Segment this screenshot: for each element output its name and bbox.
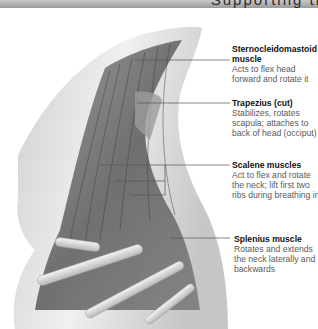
label-splenius: Splenius muscle Rotates and extends the … xyxy=(234,234,318,274)
label-title: Trapezius (cut) xyxy=(232,98,318,108)
label-title: Sternocleidomastoid muscle xyxy=(232,44,318,64)
label-description: Acts to flex head forward and rotate it xyxy=(232,64,318,84)
label-description: Rotates and extends the neck laterally a… xyxy=(234,244,318,274)
label-title: Splenius muscle xyxy=(234,234,318,244)
label-scalene: Scalene muscles Act to flex and rotate t… xyxy=(232,160,318,200)
label-title: Scalene muscles xyxy=(232,160,318,170)
label-sternocleidomastoid: Sternocleidomastoid muscle Acts to flex … xyxy=(232,44,318,84)
label-description: Act to flex and rotate the neck; lift fi… xyxy=(232,170,318,200)
label-description: Stabilizes, rotates scapula; attaches to… xyxy=(232,108,318,138)
label-trapezius: Trapezius (cut) Stabilizes, rotates scap… xyxy=(232,98,318,138)
